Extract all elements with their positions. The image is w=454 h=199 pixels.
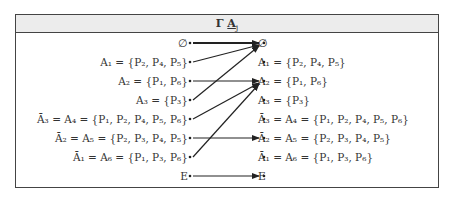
left-dots [189, 42, 192, 178]
arrow-a6-to-a2 [193, 84, 259, 157]
mapping-arrows [0, 0, 454, 199]
arrow-a4-to-a2 [193, 83, 259, 119]
right-dots [263, 42, 266, 178]
